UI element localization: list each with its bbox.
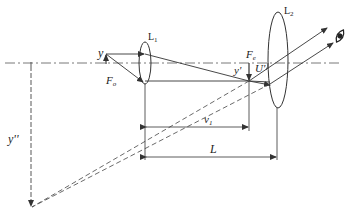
image-distance-label: v1 bbox=[204, 113, 212, 127]
eyepiece-focus-label: Fe bbox=[245, 48, 256, 62]
final-image-label: y'' bbox=[7, 132, 19, 146]
lens-separation-label: L bbox=[209, 142, 217, 156]
eye-icon bbox=[334, 28, 346, 43]
eyepiece-lens-label: L2 bbox=[284, 5, 294, 18]
angle-label: U' bbox=[255, 62, 266, 74]
optical-diagram: L1 L2 y Fo Fe y' U' y'' v1 L bbox=[0, 0, 351, 219]
intermediate-image-label: y' bbox=[233, 64, 242, 76]
emergent-ray-lower bbox=[270, 43, 333, 84]
eyepiece-lens-l2 bbox=[268, 12, 288, 108]
object-label: y bbox=[97, 46, 104, 60]
object-focus-label: Fo bbox=[105, 74, 117, 88]
virtual-ray-lower bbox=[32, 84, 270, 207]
objective-lens-label: L1 bbox=[148, 31, 158, 44]
